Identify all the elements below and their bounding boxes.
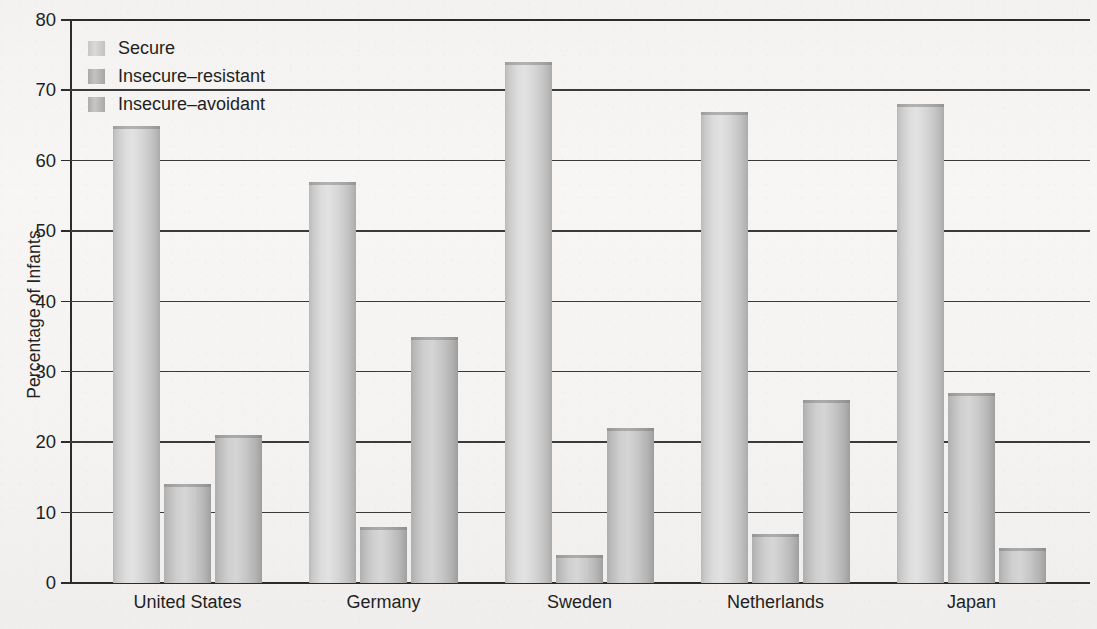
bar-top-edge <box>411 337 458 340</box>
legend-label: Secure <box>118 38 175 59</box>
y-axis-tick-label: 70 <box>35 79 56 101</box>
chart-figure: Percentage of Infants 01020304050607080 … <box>0 0 1097 629</box>
bar <box>360 527 407 583</box>
bar-top-edge <box>948 393 995 396</box>
bar-top-edge <box>607 428 654 431</box>
x-axis-category-label: Japan <box>947 592 996 613</box>
bar <box>215 435 262 583</box>
bar-top-edge <box>556 555 603 558</box>
y-axis-tick-label: 40 <box>35 291 56 313</box>
bar <box>701 112 748 584</box>
bar <box>803 400 850 583</box>
x-axis-category-label: United States <box>133 592 241 613</box>
legend-item: Secure <box>88 36 265 61</box>
y-axis-tick-label: 10 <box>35 502 56 524</box>
y-axis-tick <box>61 160 70 162</box>
bar-top-edge <box>505 62 552 65</box>
bar <box>164 484 211 583</box>
bar-top-edge <box>752 534 799 537</box>
x-axis-category-label: Netherlands <box>727 592 824 613</box>
x-axis-category-label: Germany <box>346 592 420 613</box>
y-axis-tick <box>61 441 70 443</box>
y-axis-tick <box>61 371 70 373</box>
bar <box>309 182 356 583</box>
gridline <box>70 19 1090 21</box>
bar <box>948 393 995 583</box>
bar <box>505 62 552 583</box>
bar <box>113 126 160 583</box>
y-axis-tick <box>61 89 70 91</box>
y-axis-tick-label: 80 <box>35 9 56 31</box>
legend-label: Insecure–resistant <box>118 66 265 87</box>
legend-label: Insecure–avoidant <box>118 94 265 115</box>
y-axis-tick-label: 30 <box>35 361 56 383</box>
x-axis-category-label: Sweden <box>547 592 612 613</box>
bar-top-edge <box>803 400 850 403</box>
y-axis-tick-label: 20 <box>35 431 56 453</box>
legend-swatch-icon <box>88 97 105 112</box>
bar <box>999 548 1046 583</box>
y-axis-tick <box>61 512 70 514</box>
legend-swatch-icon <box>88 41 105 56</box>
y-axis-tick <box>61 230 70 232</box>
legend-item: Insecure–avoidant <box>88 92 265 117</box>
y-axis-tick <box>61 582 70 584</box>
bar-top-edge <box>360 527 407 530</box>
bar-top-edge <box>164 484 211 487</box>
y-axis-tick-label: 0 <box>46 572 56 594</box>
chart-legend: SecureInsecure–resistantInsecure–avoidan… <box>88 36 265 120</box>
bar <box>411 337 458 583</box>
bar-top-edge <box>701 112 748 115</box>
y-axis-tick <box>61 19 70 21</box>
y-axis-tick-label: 50 <box>35 220 56 242</box>
bar <box>897 104 944 583</box>
bar-top-edge <box>309 182 356 185</box>
legend-item: Insecure–resistant <box>88 64 265 89</box>
y-axis-tick-label: 60 <box>35 150 56 172</box>
bar <box>607 428 654 583</box>
bar <box>556 555 603 583</box>
bar-top-edge <box>897 104 944 107</box>
bar <box>752 534 799 583</box>
bar-top-edge <box>215 435 262 438</box>
legend-swatch-icon <box>88 69 105 84</box>
y-axis-tick <box>61 301 70 303</box>
bar-top-edge <box>999 548 1046 551</box>
bar-top-edge <box>113 126 160 129</box>
